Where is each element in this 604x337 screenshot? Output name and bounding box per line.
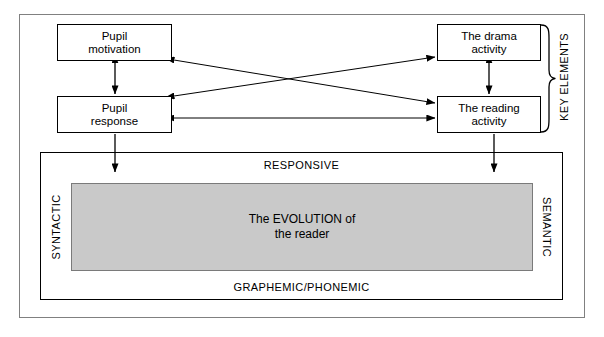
panel-label-semantic: SEMANTIC <box>538 179 556 275</box>
box-drama-activity-line1: The drama <box>461 30 517 43</box>
box-pupil-response-line2: response <box>91 115 138 128</box>
box-pupil-motivation-line2: motivation <box>88 43 140 56</box>
panel-label-graphemic-phonemic: GRAPHEMIC/PHONEMIC <box>41 281 562 293</box>
panel-label-responsive: RESPONSIVE <box>41 159 562 171</box>
box-reading-activity[interactable]: The reading activity <box>437 96 541 133</box>
box-pupil-response-line1: Pupil <box>91 102 138 115</box>
box-drama-activity[interactable]: The drama activity <box>437 24 541 61</box>
diagram-canvas: The reading activity --> The drama activ… <box>0 0 604 337</box>
panel-label-semantic-text: SEMANTIC <box>541 197 553 257</box>
box-pupil-motivation[interactable]: Pupil motivation <box>57 24 172 61</box>
key-elements-label: KEY ELEMENTS <box>556 20 572 134</box>
evolution-block-line2: the reader <box>249 227 356 242</box>
evolution-panel: RESPONSIVE SYNTACTIC SEMANTIC The EVOLUT… <box>40 152 563 300</box>
box-drama-activity-line2: activity <box>461 43 517 56</box>
box-pupil-response[interactable]: Pupil response <box>57 96 172 133</box>
panel-label-syntactic: SYNTACTIC <box>47 179 65 275</box>
box-pupil-motivation-line1: Pupil <box>88 30 140 43</box>
box-reading-activity-line1: The reading <box>458 102 519 115</box>
evolution-block: The EVOLUTION of the reader <box>71 183 533 271</box>
key-elements-label-text: KEY ELEMENTS <box>558 33 570 121</box>
evolution-block-line1: The EVOLUTION of <box>249 212 356 227</box>
box-reading-activity-line2: activity <box>458 115 519 128</box>
panel-label-syntactic-text: SYNTACTIC <box>50 194 62 259</box>
